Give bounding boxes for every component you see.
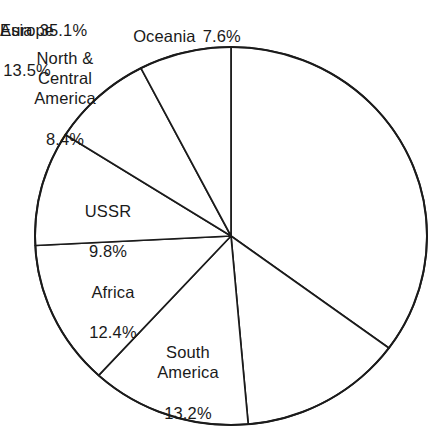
pie-chart-canvas [0,0,447,444]
pie-slices-group [35,47,427,425]
pie-chart: Oceania7.6% North & Central America 8.4%… [0,0,447,444]
